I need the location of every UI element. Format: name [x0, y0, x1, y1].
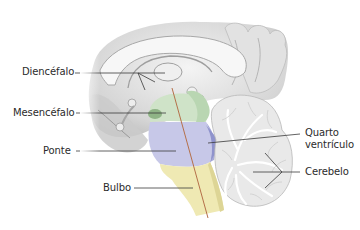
label-quarto-ventriculo-line1: Quarto: [305, 127, 339, 139]
brain-diagram: Diencéfalo Mesencéfalo Ponte Bulbo Quart…: [0, 0, 360, 230]
label-ponte: Ponte: [43, 145, 71, 157]
bulbo-region: [160, 162, 224, 216]
cerebelo-region: [211, 95, 292, 206]
ponte-region: [148, 122, 215, 167]
label-quarto-ventriculo-line2: ventrículo: [305, 139, 354, 151]
label-bulbo: Bulbo: [103, 182, 131, 194]
label-mesencefalo: Mesencéfalo: [13, 107, 75, 119]
label-diencefalo: Diencéfalo: [22, 66, 74, 78]
label-cerebelo: Cerebelo: [305, 166, 349, 178]
